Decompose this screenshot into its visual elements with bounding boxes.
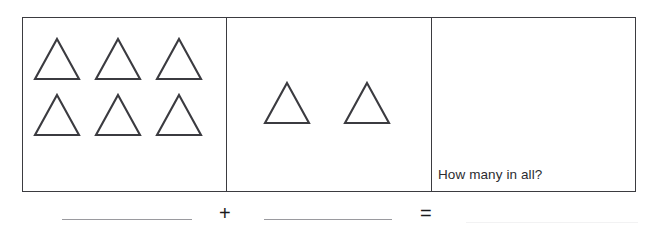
- equals-symbol: =: [420, 203, 432, 223]
- question-prompt: How many in all?: [438, 167, 542, 182]
- triangle-group-two: [262, 80, 392, 126]
- second-addend-panel: [226, 18, 431, 191]
- panel-divider-second: [431, 18, 432, 191]
- panel-divider-first: [226, 18, 227, 191]
- triangle-icon: [93, 36, 143, 82]
- addition-worksheet: How many in all? + =: [0, 0, 657, 235]
- answer-blank[interactable]: [466, 222, 638, 223]
- triangle-icon: [154, 36, 204, 82]
- sum-panel: How many in all?: [431, 18, 637, 191]
- second-addend-blank[interactable]: [264, 219, 392, 220]
- triangle-icon: [93, 92, 143, 138]
- triangle-icon: [342, 80, 392, 126]
- plus-symbol: +: [219, 203, 231, 223]
- first-addend-blank[interactable]: [62, 219, 192, 220]
- three-panel-box: How many in all?: [22, 17, 636, 192]
- triangle-icon: [32, 92, 82, 138]
- first-addend-panel: [23, 18, 226, 191]
- equation-row: + =: [0, 192, 657, 235]
- triangle-row-bottom: [32, 92, 218, 138]
- triangle-group-six: [32, 36, 218, 138]
- triangle-row-top: [32, 36, 218, 82]
- triangle-icon: [154, 92, 204, 138]
- triangle-icon: [262, 80, 312, 126]
- triangle-icon: [32, 36, 82, 82]
